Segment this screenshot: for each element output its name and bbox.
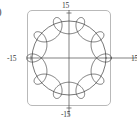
- axes-group: [27, 10, 137, 116]
- tick-label-top: 15: [62, 2, 69, 10]
- tick-label-left: -15: [7, 55, 16, 63]
- figure-screenshot: ) 15 -15 15 -15: [0, 0, 137, 120]
- plot-canvas: [0, 0, 137, 120]
- tick-label-right: 15: [131, 55, 137, 63]
- tick-label-bottom: -15: [61, 111, 70, 119]
